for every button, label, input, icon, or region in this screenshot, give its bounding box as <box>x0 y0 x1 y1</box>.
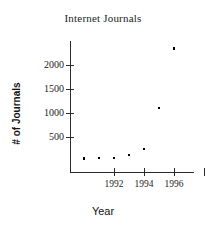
data-point <box>173 47 175 49</box>
y-tick-label: 1500 <box>16 83 64 95</box>
y-tick-label-text: 1000 <box>20 107 64 118</box>
y-tick-label-text: 500 <box>20 131 64 142</box>
data-point <box>83 157 85 159</box>
data-point <box>143 148 145 150</box>
y-tick-mark <box>66 65 74 66</box>
x-tick-mark <box>114 168 115 176</box>
y-tick-label-text: 2000 <box>20 59 64 70</box>
y-tick-mark <box>66 89 74 90</box>
data-point <box>158 107 160 109</box>
x-tick-mark <box>204 168 205 176</box>
x-axis-line <box>70 172 194 173</box>
y-tick-mark <box>66 113 74 114</box>
x-tick-mark <box>174 168 175 176</box>
data-point <box>98 157 100 159</box>
y-tick-label: 2000 <box>16 59 64 71</box>
x-tick-mark <box>144 168 145 176</box>
data-point <box>113 157 115 159</box>
y-tick-label-text: 1500 <box>20 83 64 94</box>
x-axis-title: Year <box>0 205 206 217</box>
y-axis-line <box>70 41 71 173</box>
plot-area: 500100015002000 199219941996 <box>0 0 206 235</box>
chart-figure: Internet Journals # of Journals 50010001… <box>0 0 206 235</box>
y-tick-label: 1000 <box>16 107 64 119</box>
y-tick-mark <box>66 137 74 138</box>
y-tick-label: 500 <box>16 131 64 143</box>
x-tick-label: 1996 <box>154 179 194 189</box>
data-point <box>128 154 130 156</box>
